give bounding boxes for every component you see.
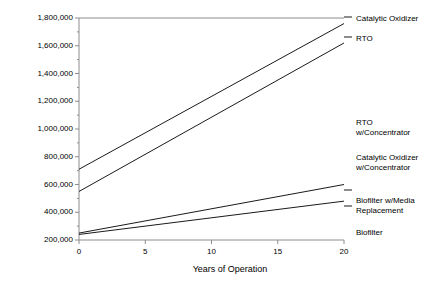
series-label-4: Biofilter w/Media Replacement	[356, 196, 415, 215]
chart-figure: Cost of Ownership Years of Operation 200…	[0, 0, 445, 284]
y-axis-tick-label: 1,400,000	[17, 69, 73, 78]
data-lines-group	[79, 24, 344, 235]
series-label-3: Catalytic Oxidizer w/Concentrator	[356, 153, 418, 172]
axes-group	[79, 18, 344, 240]
y-axis-tick-label: 1,600,000	[17, 41, 73, 50]
y-axis-tick-label: 1,200,000	[17, 96, 73, 105]
y-axis-tick-label: 1,000,000	[17, 124, 73, 133]
series-label-2: RTO w/Concentrator	[356, 118, 410, 137]
x-axis-tick-label: 10	[197, 247, 227, 256]
series-label-5: Biofilter	[356, 228, 383, 238]
x-axis-tick-label: 0	[64, 247, 94, 256]
y-axis-tick-label: 1,800,000	[17, 13, 73, 22]
y-axis-tick-label: 400,000	[17, 207, 73, 216]
data-line-series-1	[79, 43, 344, 191]
tick-marks-group	[75, 18, 344, 244]
y-axis-tick-label: 600,000	[17, 180, 73, 189]
leader-lines-group	[344, 17, 352, 206]
x-axis-title: Years of Operation	[150, 264, 310, 274]
y-axis-tick-label: 800,000	[17, 152, 73, 161]
x-axis-tick-label: 20	[329, 247, 359, 256]
series-label-0: Catalytic Oxidizer	[356, 14, 418, 24]
x-axis-tick-label: 5	[130, 247, 160, 256]
series-label-1: RTO	[356, 34, 373, 44]
x-axis-tick-label: 15	[263, 247, 293, 256]
y-axis-tick-label: 200,000	[17, 235, 73, 244]
data-line-series-0	[79, 24, 344, 170]
data-line-series-5	[79, 201, 344, 234]
data-line-series-4	[79, 185, 344, 234]
